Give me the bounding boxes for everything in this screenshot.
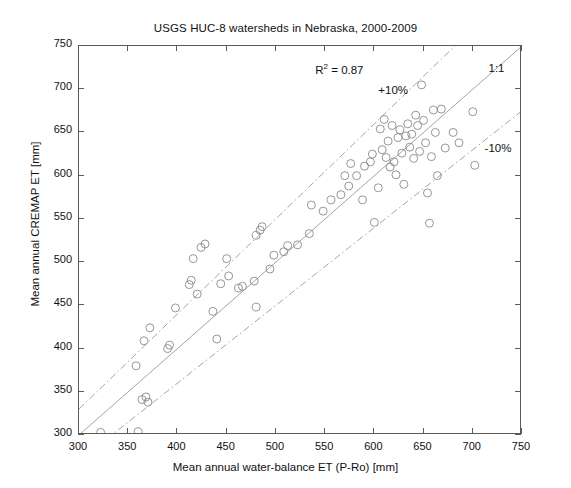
data-point [97, 428, 105, 434]
data-point [305, 230, 313, 238]
y-tick-label: 700 [32, 80, 72, 92]
x-tick-mark [226, 428, 227, 434]
x-tick-mark-top [176, 45, 177, 51]
data-point [416, 147, 424, 155]
data-point [280, 248, 288, 256]
y-tick-mark [78, 175, 84, 176]
x-tick-mark [373, 428, 374, 434]
x-tick-mark-top [373, 45, 374, 51]
y-tick-mark [78, 434, 84, 435]
data-point [266, 265, 274, 273]
data-point [213, 335, 221, 343]
x-tick-label: 700 [450, 440, 494, 452]
data-point [469, 108, 477, 116]
x-tick-mark [423, 428, 424, 434]
data-point [396, 126, 404, 134]
x-tick-mark [324, 428, 325, 434]
data-point [398, 149, 406, 157]
data-point [345, 182, 353, 190]
chart-title: USGS HUC-8 watersheds in Nebraska, 2000-… [0, 22, 571, 34]
data-point [400, 180, 408, 188]
data-point [270, 251, 278, 259]
minus-10-percent-line [112, 111, 521, 434]
x-tick-label: 750 [499, 440, 543, 452]
y-tick-mark-right [515, 45, 521, 46]
data-point [392, 171, 400, 179]
data-point [429, 106, 437, 114]
x-tick-label: 500 [253, 440, 297, 452]
one-to-one-line [79, 46, 521, 434]
x-tick-label: 400 [154, 440, 198, 452]
x-tick-mark [521, 428, 522, 434]
y-tick-mark-right [515, 175, 521, 176]
data-point [252, 303, 260, 311]
plus-10-percent-line [79, 46, 455, 409]
x-tick-label: 600 [351, 440, 395, 452]
data-point [441, 144, 449, 152]
data-point [410, 154, 418, 162]
data-point [140, 337, 148, 345]
data-point [370, 218, 378, 226]
data-point [423, 189, 431, 197]
data-point [384, 137, 392, 145]
data-point [378, 146, 386, 154]
data-point [337, 191, 345, 199]
data-point [217, 280, 225, 288]
y-tick-mark [78, 131, 84, 132]
y-tick-mark-right [515, 261, 521, 262]
x-tick-mark [472, 428, 473, 434]
data-point [471, 161, 479, 169]
data-point [422, 139, 430, 147]
data-point [225, 272, 233, 280]
data-point [431, 128, 439, 136]
data-point [341, 172, 349, 180]
x-tick-label: 300 [56, 440, 100, 452]
data-point [353, 172, 361, 180]
plus-ten-percent: +10% [378, 84, 408, 96]
x-tick-mark [127, 428, 128, 434]
data-point [390, 158, 398, 166]
data-point [189, 255, 197, 263]
one-to-one: 1:1 [489, 62, 505, 74]
x-tick-mark-top [275, 45, 276, 51]
data-point [366, 158, 374, 166]
data-point [427, 153, 435, 161]
data-point [388, 122, 396, 130]
x-axis-label: Mean annual water-balance ET (P-Ro) [mm] [0, 461, 571, 473]
x-tick-label: 350 [105, 440, 149, 452]
data-point [368, 150, 376, 158]
chart-figure: USGS HUC-8 watersheds in Nebraska, 2000-… [0, 0, 571, 488]
y-tick-mark-right [515, 304, 521, 305]
x-tick-mark-top [127, 45, 128, 51]
x-tick-label: 550 [302, 440, 346, 452]
x-tick-label: 650 [401, 440, 445, 452]
y-tick-mark-right [515, 131, 521, 132]
y-tick-label: 300 [32, 426, 72, 438]
data-point [418, 81, 426, 89]
x-tick-mark-top [521, 45, 522, 51]
data-point [193, 290, 201, 298]
x-tick-mark [176, 428, 177, 434]
data-point [209, 307, 217, 315]
x-tick-mark-top [472, 45, 473, 51]
y-tick-mark-right [515, 218, 521, 219]
data-point [171, 304, 179, 312]
plot-area: R2 = 0.87+10%1:1-10% [78, 45, 521, 434]
data-point [284, 242, 292, 250]
x-tick-mark-top [423, 45, 424, 51]
x-tick-mark [275, 428, 276, 434]
data-point [394, 134, 402, 142]
data-point [347, 160, 355, 168]
data-point [132, 362, 140, 370]
reference-lines-group [79, 46, 521, 434]
data-point [360, 162, 368, 170]
plot-svg [79, 46, 521, 434]
data-point [412, 111, 420, 119]
y-tick-mark-right [515, 434, 521, 435]
data-point [134, 428, 142, 434]
y-tick-mark [78, 45, 84, 46]
y-tick-mark-right [515, 348, 521, 349]
y-tick-mark [78, 348, 84, 349]
data-point [146, 324, 154, 332]
data-point [223, 255, 231, 263]
